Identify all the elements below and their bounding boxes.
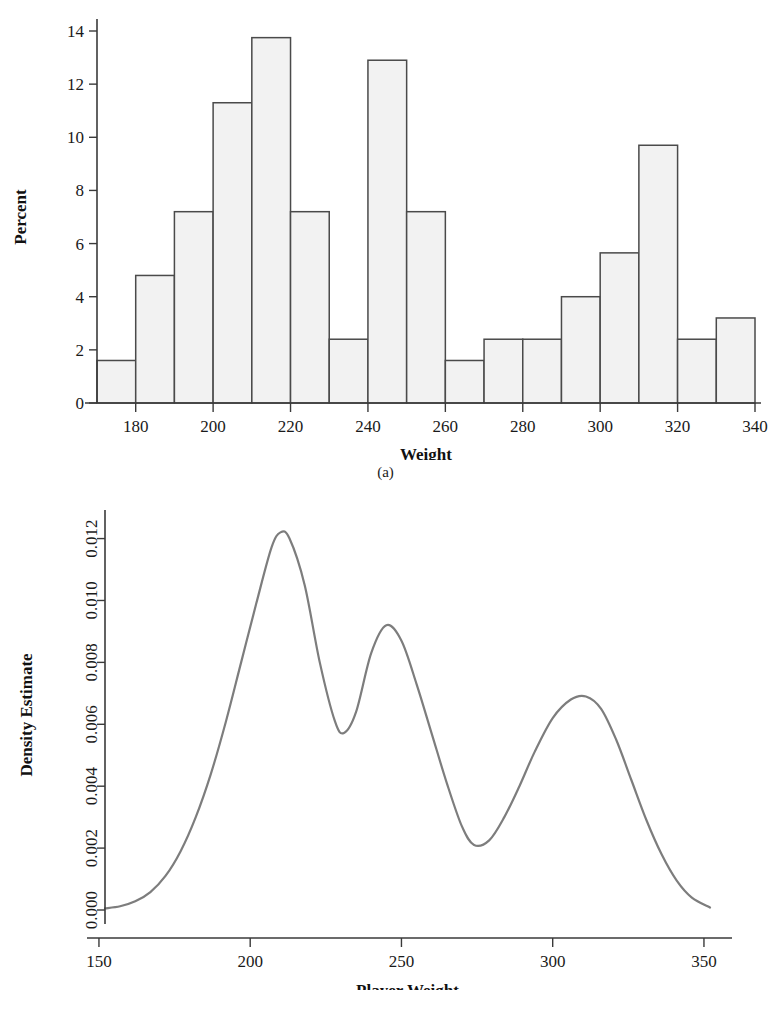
y-tick-label: 0.010 <box>82 581 101 619</box>
x-tick-label: 350 <box>691 952 717 971</box>
y-tick-label: 0.004 <box>82 767 101 806</box>
y-tick-label: 14 <box>67 22 85 41</box>
y-tick-label: 0.002 <box>82 829 101 867</box>
histogram-bar <box>445 360 484 403</box>
x-tick-label: 300 <box>540 952 566 971</box>
x-tick-label: 280 <box>510 417 536 436</box>
x-tick-label: 150 <box>86 952 112 971</box>
x-tick-label: 260 <box>433 417 459 436</box>
density-curve-line <box>105 531 710 908</box>
histogram-bar <box>561 297 600 403</box>
x-tick-label: 320 <box>665 417 691 436</box>
density-figure: 0.0000.0020.0040.0060.0080.0100.01215020… <box>0 490 771 1024</box>
histogram-bar <box>329 339 368 403</box>
x-tick-label: 200 <box>200 417 226 436</box>
y-tick-label: 4 <box>76 288 85 307</box>
x-axis-title: Weight <box>400 445 452 460</box>
y-tick-label: 0.012 <box>82 519 101 557</box>
histogram-bar <box>213 103 252 403</box>
y-tick-label: 6 <box>76 235 85 254</box>
histogram-bar <box>484 339 523 403</box>
x-tick-label: 250 <box>389 952 415 971</box>
histogram-bar <box>252 38 291 403</box>
histogram-bar <box>368 60 407 403</box>
x-axis-ticks: 150200250300350 <box>86 938 717 971</box>
y-axis-ticks: 02468101214 <box>67 22 97 413</box>
histogram-bar <box>136 275 175 403</box>
histogram-bar <box>523 339 562 403</box>
histogram-bar <box>174 212 213 403</box>
y-tick-label: 12 <box>67 75 84 94</box>
x-tick-label: 200 <box>237 952 263 971</box>
x-axis-ticks: 180200220240260280300320340 <box>123 403 768 436</box>
y-tick-label: 2 <box>76 341 85 360</box>
x-tick-label: 180 <box>123 417 149 436</box>
x-axis-title: Player Weight <box>356 981 459 990</box>
y-tick-label: 0.000 <box>82 891 101 929</box>
x-tick-label: 220 <box>278 417 304 436</box>
density-plot: 0.0000.0020.0040.0060.0080.0100.01215020… <box>0 490 771 990</box>
x-tick-label: 340 <box>742 417 768 436</box>
figure-a-caption: (a) <box>0 464 771 481</box>
y-tick-label: 8 <box>76 181 85 200</box>
histogram-bar <box>678 339 717 403</box>
histogram-bar <box>716 318 755 403</box>
histogram-plot: 02468101214180200220240260280300320340We… <box>0 0 771 460</box>
histogram-bars <box>97 38 755 403</box>
y-tick-label: 0.008 <box>82 643 101 681</box>
histogram-bar <box>639 145 678 403</box>
histogram-bar <box>600 253 639 403</box>
y-tick-label: 0 <box>76 394 85 413</box>
histogram-figure: 02468101214180200220240260280300320340We… <box>0 0 771 490</box>
y-tick-label: 0.006 <box>82 705 101 743</box>
x-tick-label: 240 <box>355 417 381 436</box>
histogram-bar <box>97 360 136 403</box>
y-axis-title: Percent <box>11 189 30 245</box>
y-axis-title: Density Estimate <box>17 653 36 777</box>
x-tick-label: 300 <box>587 417 613 436</box>
histogram-bar <box>291 212 330 403</box>
y-tick-label: 10 <box>67 128 84 147</box>
y-axis-ticks: 0.0000.0020.0040.0060.0080.0100.012 <box>82 519 105 929</box>
histogram-bar <box>407 212 446 403</box>
